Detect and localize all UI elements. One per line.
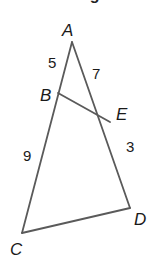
length-label-ed: 3 xyxy=(126,138,134,155)
triangle-diagram: A B E D C 5 7 3 9 xyxy=(0,0,156,263)
length-label-ae: 7 xyxy=(92,65,100,82)
segment-be xyxy=(58,93,110,122)
vertex-label-b: B xyxy=(40,86,51,105)
vertex-label-e: E xyxy=(116,105,128,124)
segment-ad xyxy=(72,42,130,208)
length-label-bc: 9 xyxy=(23,147,31,164)
length-label-ab: 5 xyxy=(48,54,56,71)
segment-cd xyxy=(22,208,130,233)
vertex-label-c: C xyxy=(10,240,23,259)
vertex-label-d: D xyxy=(134,210,146,229)
segment-ac xyxy=(22,42,72,233)
vertex-label-a: A xyxy=(61,21,73,40)
